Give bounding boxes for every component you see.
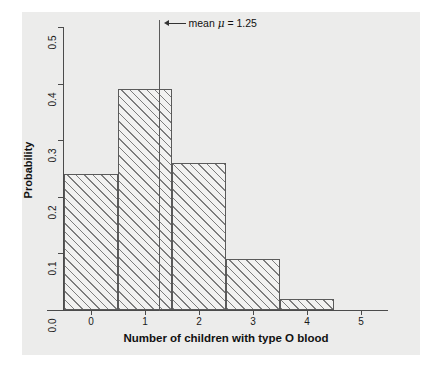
y-tick-mark-0	[58, 310, 63, 311]
x-tick-mark-2	[199, 310, 200, 315]
x-tick-label-1: 1	[135, 316, 155, 327]
mean-annotation-label: mean μ = 1.25	[189, 17, 257, 29]
histogram-bar-0	[64, 174, 118, 310]
y-tick-label-5: 0.5	[47, 28, 58, 58]
x-tick-mark-1	[145, 310, 146, 315]
figure-container: 0.0 0.1 0.2 0.3 0.4 0.5 Probability 0 1 …	[0, 0, 433, 370]
y-tick-label-2: 0.2	[47, 198, 58, 228]
mean-annotation-suffix: = 1.25	[225, 17, 257, 29]
x-tick-label-4: 4	[297, 316, 317, 327]
mean-annotation: mean μ = 1.25	[164, 17, 257, 29]
mean-annotation-prefix: mean	[189, 17, 218, 29]
x-axis-spine	[47, 310, 388, 311]
y-tick-label-1: 0.1	[47, 254, 58, 284]
y-tick-mark-3	[58, 140, 63, 141]
histogram-bar-4	[280, 299, 334, 310]
mean-reference-line	[159, 20, 160, 311]
x-tick-label-2: 2	[189, 316, 209, 327]
y-tick-mark-1	[58, 253, 63, 254]
x-tick-mark-3	[253, 310, 254, 315]
histogram-bar-1	[118, 89, 172, 310]
left-arrow-icon	[164, 20, 186, 27]
histogram-bar-3	[226, 259, 280, 310]
x-axis-title: Number of children with type O blood	[64, 332, 388, 344]
y-tick-mark-5	[58, 27, 63, 28]
x-tick-mark-5	[361, 310, 362, 315]
mu-symbol: μ	[218, 17, 225, 29]
histogram-bar-2	[172, 163, 226, 310]
x-tick-label-3: 3	[243, 316, 263, 327]
histogram-plot: 0.0 0.1 0.2 0.3 0.4 0.5 Probability 0 1 …	[0, 0, 433, 370]
x-tick-label-0: 0	[81, 316, 101, 327]
y-tick-label-3: 0.3	[47, 141, 58, 171]
x-tick-mark-4	[307, 310, 308, 315]
y-tick-mark-2	[58, 197, 63, 198]
y-axis-title: Probability	[22, 90, 34, 250]
y-tick-label-4: 0.4	[47, 85, 58, 115]
y-tick-label-0: 0.0	[47, 311, 58, 341]
y-tick-mark-4	[58, 84, 63, 85]
x-tick-mark-0	[91, 310, 92, 315]
x-tick-label-5: 5	[351, 316, 371, 327]
